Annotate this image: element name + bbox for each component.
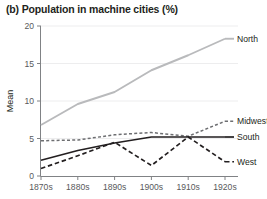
- series-label-south: South: [237, 132, 260, 142]
- y-tick-label: 10: [24, 96, 34, 106]
- series-paths-group: [41, 39, 225, 169]
- series-label-midwest: Midwest: [237, 116, 267, 126]
- gridlines-group: [41, 26, 238, 139]
- series-line-north: [41, 39, 225, 125]
- x-tick-label: 1890s: [103, 182, 126, 192]
- x-tick-label: 1870s: [29, 182, 52, 192]
- line-chart-plot: 05101520 1870s1880s1890s1900s1910s1920s …: [0, 0, 267, 199]
- x-tick-label: 1920s: [213, 182, 236, 192]
- x-tick-label: 1900s: [140, 182, 163, 192]
- series-label-north: North: [237, 34, 258, 44]
- series-label-group: NorthMidwestSouthWest: [225, 34, 267, 167]
- x-tick-label: 1910s: [176, 182, 199, 192]
- y-tick-label: 20: [24, 21, 34, 31]
- y-axis-label: Mean: [5, 90, 15, 113]
- y-tick-label: 15: [24, 59, 34, 69]
- chart-figure: (b) Population in machine cities (%) 051…: [0, 0, 267, 199]
- y-tick-label: 0: [29, 171, 34, 181]
- x-tick-group: 1870s1880s1890s1900s1910s1920s: [29, 176, 236, 192]
- x-tick-label: 1880s: [66, 182, 89, 192]
- y-tick-group: 05101520: [24, 21, 41, 181]
- series-label-west: West: [237, 157, 257, 167]
- y-tick-label: 5: [29, 134, 34, 144]
